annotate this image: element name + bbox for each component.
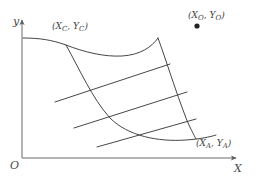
label-point-c: (XC, YC): [52, 22, 88, 32]
y-axis-label: y: [13, 16, 19, 27]
cross-line-2: [74, 92, 187, 128]
x-axis-label: X: [234, 163, 242, 174]
diagram-svg: [0, 0, 258, 188]
left-curve-from-C: [66, 45, 216, 140]
figure-canvas: (XC, YC) (XO, YO) (XA, YA) X y O: [0, 0, 258, 188]
label-point-o: (XO, YO): [188, 11, 225, 21]
curves-group: [23, 38, 216, 147]
points-group: [194, 23, 199, 28]
cross-line-3: [97, 119, 196, 147]
origin-label: O: [10, 160, 19, 171]
label-point-a: (XA, YA): [196, 139, 231, 149]
top-boundary-curve: [23, 38, 158, 56]
cross-line-1: [55, 64, 170, 102]
point-O-marker: [194, 23, 199, 28]
right-boundary-curve: [158, 38, 196, 139]
